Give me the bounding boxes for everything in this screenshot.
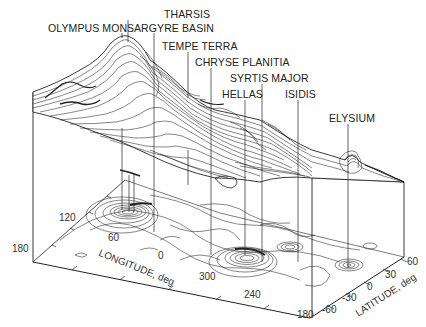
label-tharsis: THARSIS bbox=[164, 9, 210, 20]
label-olympus-mons: OLYMPUS MONS bbox=[48, 23, 134, 34]
latitude-tick-30: 30 bbox=[385, 270, 396, 280]
label-chryse-planitia: CHRYSE PLANITIA bbox=[195, 57, 290, 68]
label-tempe-terra: TEMPE TERRA bbox=[162, 41, 238, 52]
longitude-tick-0: 0 bbox=[158, 251, 164, 261]
latitude-tick-minus30: -30 bbox=[342, 293, 356, 303]
longitude-tick-300: 300 bbox=[199, 272, 216, 282]
label-isidis: ISIDIS bbox=[285, 89, 316, 100]
latitude-tick-60: 60 bbox=[407, 257, 418, 267]
longitude-tick-120: 120 bbox=[59, 213, 76, 223]
longitude-tick-60: 60 bbox=[108, 233, 119, 243]
label-syrtis-major: SYRTIS MAJOR bbox=[230, 73, 309, 84]
longitude-tick-180-left: 180 bbox=[12, 244, 29, 254]
latitude-tick-minus60: -60 bbox=[322, 305, 336, 315]
label-hellas: HELLAS bbox=[222, 89, 263, 100]
label-elysium: ELYSIUM bbox=[329, 113, 375, 124]
longitude-tick-180-right: 180 bbox=[297, 310, 314, 320]
longitude-tick-240: 240 bbox=[244, 290, 261, 300]
label-argyre-basin: ARGYRE BASIN bbox=[134, 23, 214, 34]
latitude-tick-0: 0 bbox=[367, 282, 373, 292]
